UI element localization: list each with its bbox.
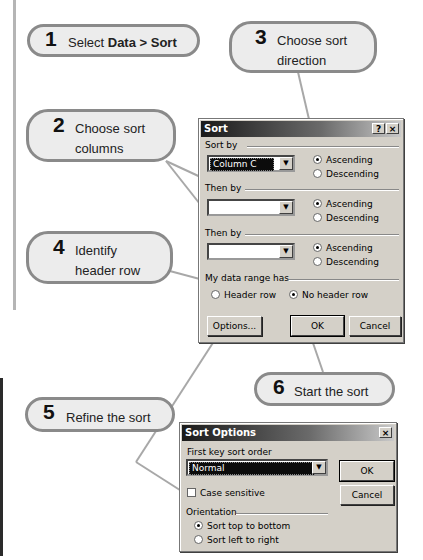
orientation-group: Orientation [186,507,328,517]
then-by-1-descending-radio[interactable]: Descending [313,212,379,224]
radio-icon [313,257,322,266]
callout-step-5: 5 Refine the sort [25,397,175,432]
radio-label: Header row [224,290,276,300]
sort-by-ascending-radio[interactable]: Ascending [313,154,373,166]
then-by-label: Then by [205,228,241,238]
radio-label: Sort top to bottom [207,521,290,531]
step-number: 4 [53,238,65,256]
header-group-label: My data range has [205,273,289,283]
then-by-1-ascending-radio[interactable]: Ascending [313,198,373,210]
sort-by-select[interactable]: Column C ▼ [207,155,295,172]
radio-label: Ascending [326,243,373,253]
radio-selected-icon [313,155,322,164]
sort-dialog: Sort ? × Sort by Column C ▼ Ascending De… [198,118,404,343]
step-text-line2: columns [75,140,123,158]
callout-step-3: 3 Choose sort direction [229,21,377,73]
no-header-row-radio[interactable]: No header row [289,289,368,301]
then-by-1-select[interactable]: ▼ [207,199,295,216]
radio-icon [313,213,322,222]
then-by-label: Then by [205,183,241,193]
radio-label: No header row [302,290,368,300]
then-by-2-ascending-radio[interactable]: Ascending [313,242,373,254]
help-icon[interactable]: ? [372,123,385,134]
callout-step-2: 2 Choose sort columns [26,109,176,162]
step-text: Refine the sort [66,409,151,427]
step-text-line1: Choose sort [277,32,347,50]
sort-by-descending-radio[interactable]: Descending [313,168,379,180]
then-by-2-select[interactable]: ▼ [207,243,295,260]
options-button[interactable]: Options... [207,316,262,336]
dialog-title: Sort [204,123,228,134]
step-text-bold: Data > Sort [108,35,177,50]
step-number: 1 [45,30,57,48]
radio-icon [211,290,220,299]
radio-label: Ascending [326,155,373,165]
close-icon[interactable]: × [386,123,399,134]
then-by-1-value [210,202,214,213]
callout-step-6: 6 Start the sort [254,372,395,406]
first-key-value: Normal [189,462,315,475]
sort-by-value: Column C [210,158,274,171]
first-key-label-text: First key sort order [187,447,272,457]
sort-options-dialog: Sort Options × First key sort order Norm… [179,422,397,552]
step-text-line1: Identify [75,242,117,260]
step-text: Select Data > Sort [68,34,177,52]
header-row-radio[interactable]: Header row [211,289,276,301]
radio-label: Descending [326,169,379,179]
step-number: 2 [53,116,65,134]
cancel-button[interactable]: Cancel [349,316,401,336]
then-by-2-value [210,246,214,257]
sort-by-group: Sort by [205,140,399,150]
step-number: 3 [255,28,267,46]
sort-top-to-bottom-radio[interactable]: Sort top to bottom [194,520,290,532]
sort-left-to-right-radio[interactable]: Sort left to right [194,534,279,546]
callout-step-4: 4 Identify header row [26,231,173,284]
sort-by-label: Sort by [205,140,237,150]
ok-button[interactable]: OK [291,316,344,336]
radio-label: Ascending [326,199,373,209]
dialog-title: Sort Options [185,427,256,438]
then-by-1-group: Then by [205,183,399,193]
radio-icon [194,535,203,544]
step-text-line2: direction [277,52,326,70]
sort-dialog-titlebar: Sort ? × [201,121,401,137]
then-by-2-descending-radio[interactable]: Descending [313,256,379,268]
checkbox-icon [187,488,196,497]
radio-label: Descending [326,257,379,267]
first-key-label: First key sort order [187,447,272,457]
step-text-plain: Select [68,35,108,50]
cancel-button[interactable]: Cancel [340,485,394,505]
case-sensitive-checkbox[interactable]: Case sensitive [187,487,265,499]
step-text-line2: header row [75,262,140,280]
radio-selected-icon [313,243,322,252]
step-text-line1: Choose sort [75,120,145,138]
chevron-down-icon[interactable]: ▼ [279,201,293,214]
radio-selected-icon [194,521,203,530]
header-group: My data range has [205,273,399,283]
radio-label: Sort left to right [207,535,279,545]
step-number: 6 [273,378,285,396]
radio-icon [313,169,322,178]
left-box-edge [0,378,3,556]
first-key-select[interactable]: Normal ▼ [186,459,328,476]
ok-button[interactable]: OK [340,461,394,481]
radio-selected-icon [289,290,298,299]
step-text: Start the sort [294,383,368,401]
radio-selected-icon [313,199,322,208]
close-icon[interactable]: × [379,427,392,438]
step-number: 5 [43,403,55,421]
chevron-down-icon[interactable]: ▼ [279,157,293,170]
radio-label: Descending [326,213,379,223]
orientation-label: Orientation [186,507,237,517]
callout-step-1: 1 Select Data > Sort [27,24,200,57]
chevron-down-icon[interactable]: ▼ [312,461,326,474]
sort-options-titlebar: Sort Options × [182,425,394,441]
checkbox-label: Case sensitive [200,488,265,498]
left-margin-rule [13,0,16,310]
chevron-down-icon[interactable]: ▼ [279,245,293,258]
then-by-2-group: Then by [205,228,399,238]
